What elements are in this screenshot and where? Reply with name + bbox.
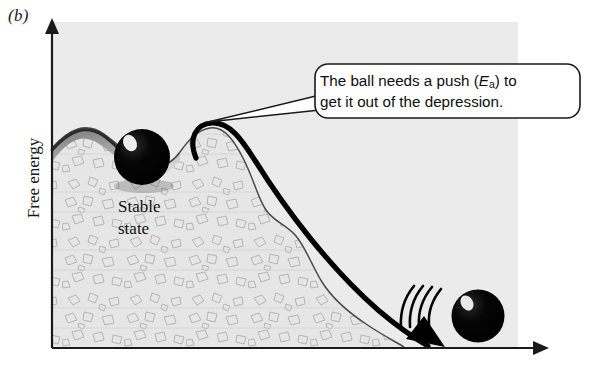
callout-line2: get it out of the depression. [320, 92, 570, 112]
stable-state-label-line2: state [118, 218, 161, 240]
stable-state-label-line1: Stable [118, 197, 161, 216]
panel-label: (b) [8, 6, 29, 26]
callout-text: The ball needs a push (Ea) to get it out… [320, 71, 570, 112]
callout-energy-symbol: E [479, 72, 489, 89]
y-axis-title: Free energy [24, 108, 44, 248]
x-axis-arrowhead [533, 341, 549, 355]
stable-state-label: Stable state [118, 196, 161, 240]
ball-rolled-down [452, 290, 505, 343]
callout-line1-after: ) to [495, 72, 517, 89]
diagram-canvas [0, 0, 607, 368]
callout-line1-before: The ball needs a push ( [320, 72, 479, 89]
energy-landscape-figure: (b) Free energy Stable state The ball ne… [0, 0, 607, 368]
